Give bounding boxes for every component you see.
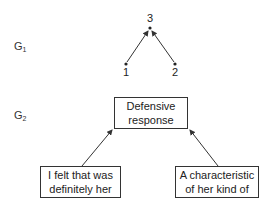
g2-node-a-characteristic: A characteristic of her kind of (175, 166, 259, 198)
g2-label-sub: 2 (23, 115, 27, 122)
g2-node-right-line1: A characteristic (176, 168, 258, 182)
g2-node-left-line1: I felt that was (41, 168, 120, 182)
g2-label-main: G (14, 109, 23, 121)
g2-label: G2 (14, 109, 26, 122)
g2-node-left-line2: definitely her (41, 182, 120, 196)
g2-node-defensive-response: Defensive response (114, 97, 188, 129)
g1-node-3-label: 3 (147, 12, 153, 24)
g1-node-2-label: 2 (172, 66, 178, 78)
g1-label-main: G (14, 40, 23, 52)
g1-node-1-label: 1 (123, 66, 129, 78)
g2-node-right-line2: of her kind of (176, 182, 258, 196)
g1-label: G1 (14, 40, 26, 53)
g1-edge-1-3 (127, 31, 148, 62)
g2-node-i-felt-that: I felt that was definitely her (40, 166, 121, 198)
g1-label-sub: 1 (23, 46, 27, 53)
g2-node-top-line2: response (115, 113, 187, 127)
g2-edge-left-top (82, 130, 112, 166)
g1-edge-2-3 (152, 31, 174, 62)
diagram-canvas: G1 3 1 2 G2 Defensive response I felt th… (0, 0, 277, 212)
g2-node-top-line1: Defensive (115, 99, 187, 113)
g2-edge-right-top (190, 130, 218, 166)
g1-node-3-dot (148, 26, 151, 29)
